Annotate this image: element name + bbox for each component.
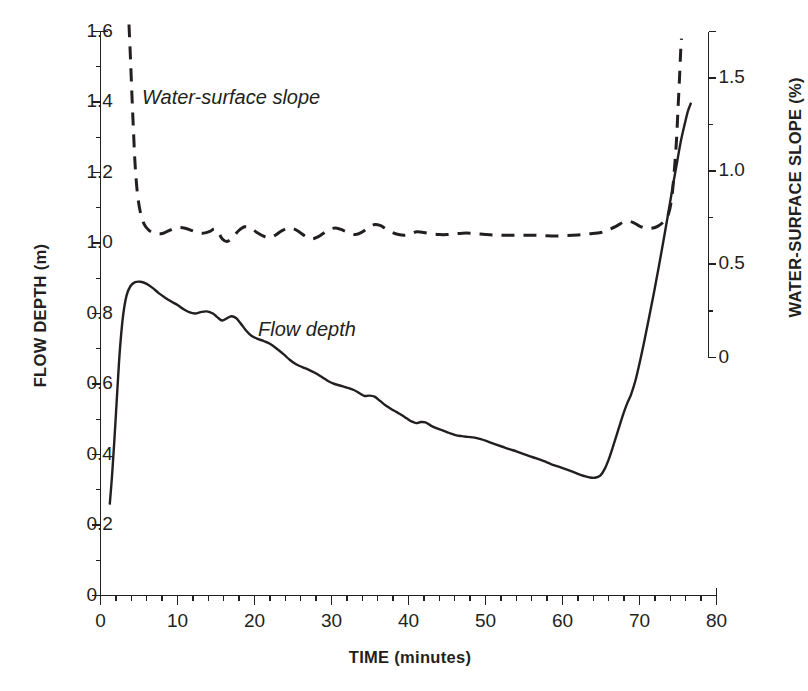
x-axis-tick-label: 20 bbox=[244, 610, 265, 632]
plot-canvas bbox=[0, 0, 808, 691]
x-axis-tick-label: 80 bbox=[706, 610, 727, 632]
x-axis-tick-label: 10 bbox=[167, 610, 188, 632]
chart-figure: 00.20.40.60.81.01.21.41.6 00.51.01.5 010… bbox=[0, 0, 808, 691]
x-axis-title: TIME (minutes) bbox=[300, 648, 520, 667]
x-axis-tick-label: 60 bbox=[552, 610, 573, 632]
annotation-water-surface-slope: Water-surface slope bbox=[142, 86, 320, 109]
series-flow-depth bbox=[110, 103, 691, 505]
right-axis-tick-label: 0.5 bbox=[719, 252, 745, 274]
series-water-surface-slope bbox=[129, 24, 681, 241]
y-axis-title-right: WATER-SURFACE SLOPE (%) bbox=[786, 78, 805, 318]
x-axis-tick-label: 40 bbox=[398, 610, 419, 632]
axis-layer bbox=[92, 32, 717, 605]
annotation-flow-depth: Flow depth bbox=[258, 318, 356, 341]
right-axis-tick-label: 0 bbox=[719, 346, 730, 368]
right-axis-tick-label: 1.0 bbox=[719, 159, 745, 181]
x-axis-tick-label: 30 bbox=[321, 610, 342, 632]
right-axis-tick-label: 1.5 bbox=[719, 66, 745, 88]
x-axis-tick-label: 0 bbox=[95, 610, 106, 632]
x-axis-tick-label: 70 bbox=[629, 610, 650, 632]
x-axis-tick-label: 50 bbox=[475, 610, 496, 632]
y-axis-title-left: FLOW DEPTH (m) bbox=[31, 216, 50, 416]
